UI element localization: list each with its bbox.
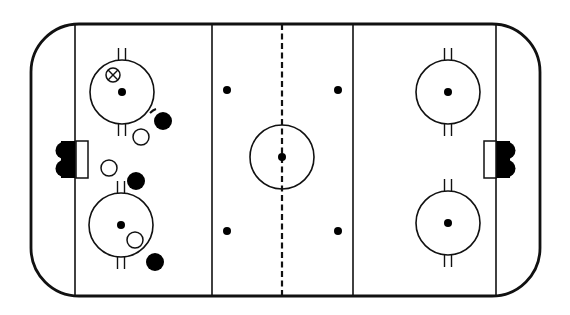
faceoff-dot: [223, 227, 231, 235]
faceoff-dot: [334, 227, 342, 235]
goal-crease-right: [484, 141, 496, 178]
goal-crease-left: [76, 141, 88, 178]
player-dark-icon: [154, 112, 172, 130]
hockey-rink-diagram: [0, 0, 570, 315]
faceoff-dot: [118, 88, 126, 96]
net-lobe: [56, 160, 73, 177]
faceoff-dot: [444, 219, 452, 227]
net-lobe: [56, 142, 73, 159]
crossed-circle-marker-icon: [106, 68, 120, 82]
player-light-icon: [133, 129, 149, 145]
net-right: [496, 141, 516, 178]
net-lobe: [499, 160, 516, 177]
net-lobe: [499, 142, 516, 159]
faceoff-dot: [334, 86, 342, 94]
faceoff-dot: [223, 86, 231, 94]
faceoff-dot: [444, 88, 452, 96]
puck-icon: [150, 109, 156, 113]
players-layer: [101, 68, 172, 271]
player-light-icon: [101, 160, 117, 176]
player-light-icon: [127, 232, 143, 248]
player-dark-icon: [146, 253, 164, 271]
faceoff-dot: [278, 153, 286, 161]
player-dark-icon: [127, 172, 145, 190]
net-left: [56, 141, 76, 178]
faceoff-dot: [117, 221, 125, 229]
